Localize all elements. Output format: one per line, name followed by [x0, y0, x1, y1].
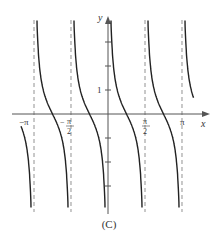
- x-tick-minus-sign: −: [60, 118, 65, 127]
- x-axis-label: x: [200, 118, 206, 129]
- x-tick-label-neg-pi: −π: [19, 117, 29, 127]
- y-axis-arrow-icon: [105, 16, 111, 24]
- chart-plot-area: y x 1 −π − π 2 π 2 π: [0, 0, 218, 238]
- figure-caption: (C): [0, 218, 218, 230]
- x-axis-arrow-icon: [202, 111, 210, 117]
- x-tick-label-neg-pi-half-num: π: [67, 117, 71, 126]
- y-axis-label: y: [97, 12, 103, 23]
- curve-branch: [21, 126, 31, 207]
- x-tick-label-neg-pi-half-den: 2: [67, 127, 71, 136]
- x-tick-label-pi-half-num: π: [143, 117, 147, 126]
- x-tick-label-pi: π: [180, 117, 185, 127]
- curve-branch: [185, 21, 194, 98]
- x-tick-label-pi-half-den: 2: [143, 127, 147, 136]
- y-tick-label-1: 1: [97, 85, 102, 95]
